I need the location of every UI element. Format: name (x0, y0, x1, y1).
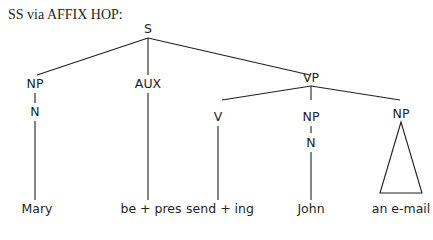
node-n-object1: N (306, 136, 315, 150)
branch-vp-np2 (311, 86, 400, 100)
leaf-mary: Mary (22, 202, 53, 216)
triangle-np-email (380, 122, 422, 193)
node-vp: VP (303, 71, 319, 85)
branch-vp-v (222, 86, 311, 100)
node-np-subject: NP (27, 77, 44, 91)
node-n-subject: N (30, 105, 39, 119)
branch-s-np (37, 38, 148, 75)
node-s: S (144, 22, 152, 36)
node-v: V (214, 110, 223, 124)
leaf-be-pres: be + pres (120, 202, 181, 216)
branch-s-vp (148, 38, 310, 75)
leaf-john: John (297, 202, 324, 216)
leaf-send-ing: send + ing (186, 202, 254, 216)
node-np-object2: NP (393, 107, 410, 121)
leaf-an-email: an e-mail (372, 202, 431, 216)
node-np-object1: NP (303, 110, 320, 124)
node-aux: AUX (135, 77, 161, 91)
